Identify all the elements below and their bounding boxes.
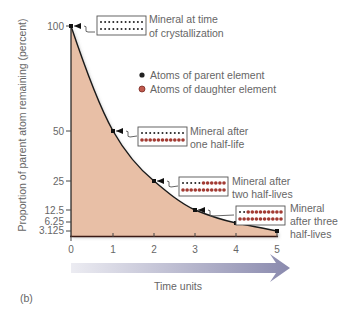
x-tick-labels: 0 1 2 3 4 5 bbox=[68, 244, 280, 255]
time-arrow-icon bbox=[71, 254, 290, 282]
annotation-3-line3: half-lives bbox=[290, 228, 331, 240]
legend: Atoms of parent element Atoms of daughte… bbox=[139, 69, 276, 95]
annotation-3-line2: after three bbox=[290, 215, 338, 227]
annotation-2-line1: Mineral after bbox=[232, 175, 291, 187]
x-tick-5: 5 bbox=[274, 244, 280, 255]
x-tick-0: 0 bbox=[68, 244, 74, 255]
y-tick-100: 100 bbox=[47, 21, 64, 32]
legend-parent-label: Atoms of parent element bbox=[150, 69, 264, 81]
x-tick-4: 4 bbox=[233, 244, 239, 255]
x-tick-1: 1 bbox=[110, 244, 116, 255]
parent-atom-icon bbox=[139, 72, 144, 77]
y-tick-50: 50 bbox=[53, 126, 65, 137]
x-axis-label: Time units bbox=[154, 280, 202, 292]
annotation-2-line2: two half-lives bbox=[232, 188, 293, 200]
y-tick-3-125: 3.125 bbox=[39, 225, 64, 236]
legend-daughter-label: Atoms of daughter element bbox=[150, 83, 276, 95]
mineral-box-1 bbox=[138, 127, 187, 146]
y-tick-labels: 100 50 25 12.5 6.25 3.125 bbox=[39, 21, 64, 236]
x-tick-2: 2 bbox=[151, 244, 157, 255]
data-point-0 bbox=[69, 24, 73, 28]
y-ticks bbox=[66, 26, 71, 231]
mineral-box-2 bbox=[179, 177, 228, 196]
annotation-3-line1: Mineral bbox=[290, 202, 324, 214]
annotation-1-line1: Mineral after bbox=[190, 125, 249, 137]
y-axis-label: Proportion of parent atom remaining (per… bbox=[16, 18, 28, 231]
data-point-3 bbox=[193, 208, 197, 212]
daughter-atom-icon bbox=[139, 86, 145, 92]
mineral-box-3 bbox=[236, 206, 285, 225]
y-tick-12-5: 12.5 bbox=[45, 205, 65, 216]
annotation-1-line2: one half-life bbox=[190, 138, 244, 150]
y-tick-25: 25 bbox=[53, 176, 65, 187]
half-life-chart: Proportion of parent atom remaining (per… bbox=[0, 0, 355, 319]
annotation-0-line1: Mineral at time bbox=[149, 13, 218, 25]
panel-label: (b) bbox=[20, 292, 33, 304]
data-point-2 bbox=[152, 179, 156, 183]
annotation-0-line2: of crystallization bbox=[149, 27, 224, 39]
data-point-1 bbox=[111, 129, 115, 133]
mineral-box-0 bbox=[97, 16, 146, 35]
data-point-5 bbox=[275, 229, 279, 233]
x-tick-3: 3 bbox=[192, 244, 198, 255]
